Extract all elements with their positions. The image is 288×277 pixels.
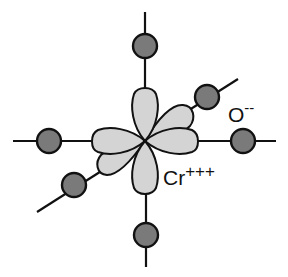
oxygen-charge: -- — [244, 99, 254, 116]
oxygen-ion-right — [231, 129, 255, 153]
chromium-label: Cr+++ — [163, 162, 215, 189]
oxygen-ion-left — [37, 129, 61, 153]
oxygen-ion-lower-left — [62, 173, 86, 197]
oxygen-ion-upper-right — [195, 85, 219, 109]
chromium-charge: +++ — [185, 162, 215, 181]
chromium-symbol: Cr — [163, 166, 185, 189]
oxygen-symbol: O — [228, 103, 244, 126]
central-nucleus-dot — [143, 139, 147, 143]
octahedral-coordination-diagram: O-- Cr+++ — [0, 0, 288, 277]
oxygen-ion-top — [133, 34, 157, 58]
oxygen-ion-bottom — [134, 223, 158, 247]
oxygen-label: O-- — [228, 99, 254, 126]
